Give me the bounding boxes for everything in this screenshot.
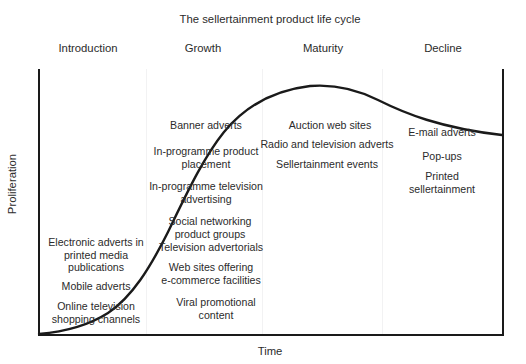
annotation-growth-0: Banner adverts	[170, 119, 242, 132]
annotation-decline-0: E-mail adverts	[408, 126, 476, 139]
annotation-maturity-2: Sellertainment events	[276, 158, 378, 171]
y-axis-line	[38, 69, 40, 336]
product-life-cycle-figure: The sellertainment product life cycle In…	[0, 0, 526, 364]
stage-header-row: Introduction Growth Maturity Decline	[0, 42, 526, 58]
annotation-maturity-0: Auction web sites	[289, 119, 371, 132]
annotation-growth-1: In-programme product placement	[154, 145, 259, 170]
annotation-introduction-2: Online television shopping channels	[52, 300, 140, 325]
stage-header-growth: Growth	[185, 42, 221, 54]
plot-right-border	[502, 69, 504, 336]
x-axis-title: Time	[0, 345, 526, 357]
stage-header-maturity: Maturity	[303, 42, 343, 54]
stage-divider-1	[146, 69, 147, 335]
annotation-growth-3: Social networking product groups	[168, 215, 251, 240]
annotation-maturity-1: Radio and television adverts	[260, 138, 393, 151]
stage-header-introduction: Introduction	[58, 42, 117, 54]
annotation-growth-4: Television advertorials	[159, 241, 263, 254]
annotation-introduction-1: Mobile adverts	[62, 280, 131, 293]
stage-divider-3	[382, 69, 383, 335]
x-axis-line	[38, 334, 504, 336]
annotation-growth-6: Viral promotional content	[176, 296, 255, 321]
annotation-growth-2: In-programme television advertising	[149, 180, 263, 205]
chart-title: The sellertainment product life cycle	[0, 13, 526, 25]
annotation-introduction-0: Electronic adverts in printed media publ…	[48, 236, 143, 274]
annotation-decline-2: Printed sellertainment	[400, 170, 484, 195]
annotation-decline-1: Pop-ups	[422, 150, 461, 163]
y-axis-title: Proliferation	[6, 124, 18, 244]
stage-header-decline: Decline	[424, 42, 462, 54]
annotation-growth-5: Web sites offering e-commerce facilities	[161, 261, 261, 286]
